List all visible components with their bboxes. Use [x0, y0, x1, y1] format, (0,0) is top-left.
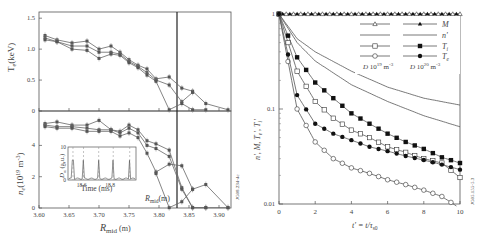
data-point — [404, 140, 408, 144]
data-point — [71, 48, 74, 51]
data-point — [286, 52, 290, 56]
data-point — [227, 108, 230, 111]
data-point — [110, 53, 113, 56]
data-point — [376, 126, 380, 130]
data-point — [394, 147, 398, 151]
data-point — [86, 49, 89, 52]
data-point — [137, 136, 140, 139]
data-point — [440, 162, 444, 166]
data-point — [440, 155, 444, 159]
data-point — [98, 57, 101, 60]
data-point — [295, 107, 300, 112]
d-alpha-inset: 051018.618.8 — [61, 144, 137, 188]
x-tick-label: 3.80 — [153, 211, 164, 218]
data-point — [86, 40, 89, 43]
y-tick-label: 0.5 — [27, 76, 35, 83]
ne-ylabel: ne(1019 m-3) — [15, 153, 26, 195]
data-point — [56, 120, 59, 123]
data-point — [458, 161, 462, 165]
data-point — [155, 142, 158, 145]
data-point — [110, 45, 113, 48]
y-tick-label: 0.01 — [264, 200, 275, 207]
legend: Mn'TiTeD 1019 m-3D 1020 m-3 — [355, 16, 460, 74]
data-point — [331, 116, 335, 120]
inset-y-tick: 10 — [61, 144, 67, 150]
data-point — [322, 148, 327, 153]
data-point — [227, 206, 230, 209]
data-point — [331, 156, 336, 161]
data-point — [340, 135, 344, 139]
data-point — [191, 188, 194, 191]
te-plot-frame — [39, 12, 231, 111]
data-point — [128, 61, 131, 64]
data-point — [431, 191, 436, 196]
data-point — [110, 130, 113, 133]
data-point — [422, 158, 426, 162]
data-point — [385, 145, 389, 149]
data-point — [168, 155, 171, 158]
figure: 3.603.653.703.753.803.853.9000.51.01.502… — [0, 0, 483, 246]
data-point — [304, 68, 308, 72]
rmid-annotation: Rmid(m) — [144, 194, 170, 204]
data-point — [146, 139, 149, 142]
x-tick-label: 3.70 — [93, 211, 104, 218]
data-point — [349, 166, 354, 171]
data-point — [418, 54, 422, 58]
y-tick-label: 1 — [272, 10, 275, 17]
data-point — [204, 108, 207, 111]
te-series — [44, 33, 230, 113]
y-tick-label: 1.0 — [27, 45, 35, 52]
data-point — [180, 188, 183, 191]
data-point — [431, 151, 435, 155]
data-point — [277, 12, 281, 16]
data-point — [358, 116, 362, 120]
data-point — [449, 158, 453, 162]
data-point — [155, 172, 158, 175]
inset-xlabel: Time (ms) — [81, 184, 113, 193]
data-point — [422, 188, 427, 193]
data-point — [119, 135, 122, 138]
x-tick-label: 6 — [386, 208, 390, 216]
data-point — [313, 122, 317, 126]
left-panel: 3.603.653.703.753.803.853.9000.51.01.502… — [6, 12, 240, 235]
data-point — [394, 151, 398, 155]
data-point — [458, 167, 462, 171]
y-tick-label: 0 — [32, 107, 35, 114]
x-tick-label: 3.75 — [123, 211, 134, 218]
data-point — [146, 144, 149, 147]
legend-label: M — [441, 20, 450, 29]
inset-frame — [68, 147, 136, 180]
data-point — [180, 200, 183, 203]
data-point — [358, 141, 362, 145]
data-point — [180, 87, 183, 90]
data-point — [56, 40, 59, 43]
data-point — [422, 147, 426, 151]
data-point — [340, 122, 344, 126]
x-tick-label: 10 — [457, 208, 465, 216]
data-point — [385, 177, 390, 182]
data-point — [413, 143, 417, 147]
data-point — [286, 33, 290, 37]
data-point — [373, 54, 378, 59]
data-point — [322, 126, 326, 130]
inset-ylabel: Dα (a.u.) — [58, 153, 67, 179]
data-point — [304, 84, 308, 88]
y-tick-label: 4 — [32, 141, 36, 148]
x-tick-label: 4 — [350, 208, 354, 216]
data-point — [313, 140, 318, 145]
data-point — [119, 54, 122, 57]
data-point — [358, 168, 363, 173]
data-point — [128, 131, 131, 134]
data-point — [304, 123, 309, 128]
x-tick-label: 0 — [277, 208, 281, 216]
data-point — [403, 182, 408, 187]
te-ylabel: Te(keV) — [6, 43, 17, 72]
data-point — [295, 55, 299, 59]
data-point — [304, 107, 308, 111]
y-tick-label: 0.1 — [267, 105, 275, 112]
data-point — [449, 200, 454, 205]
right-panel: 02468100.010.11 Mn'TiTeD 1019 m-3D 1020 … — [253, 10, 475, 231]
data-point — [168, 84, 171, 87]
right-figure-id: JG05.155-5.3 — [470, 177, 475, 205]
data-point — [137, 131, 140, 134]
